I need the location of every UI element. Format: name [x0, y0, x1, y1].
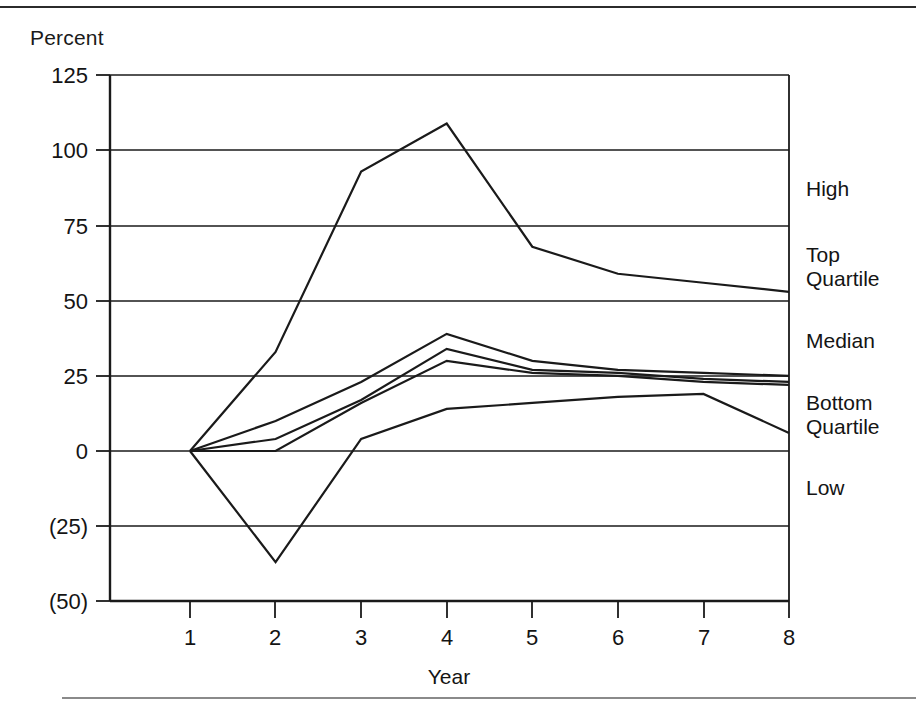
- series-label-bottom-quartile-line1: Bottom: [806, 391, 873, 414]
- x-tick-label-2: 2: [269, 625, 281, 650]
- y-tick-label-25: 25: [64, 364, 88, 389]
- y-tick-label-75: 75: [64, 214, 88, 239]
- x-axis-title: Year: [428, 665, 470, 688]
- line-chart: 125 100 75 50 25 0 (25) (50) 1 2 3 4 5 6…: [0, 0, 916, 706]
- y-tick-label-125: 125: [51, 63, 88, 88]
- series-label-top-quartile-line1: Top: [806, 243, 840, 266]
- x-tick-label-7: 7: [698, 625, 710, 650]
- x-tick-label-4: 4: [441, 625, 453, 650]
- y-tick-label-neg25: (25): [49, 514, 88, 539]
- y-tick-label-neg50: (50): [49, 589, 88, 614]
- x-tick-label-8: 8: [783, 625, 795, 650]
- series-line-top-quartile: [190, 334, 789, 451]
- series-lines: [190, 124, 789, 563]
- series-line-median: [190, 349, 789, 451]
- y-tick-label-0: 0: [76, 439, 88, 464]
- x-tick-label-3: 3: [355, 625, 367, 650]
- series-label-top-quartile-line2: Quartile: [806, 267, 880, 290]
- gridlines: [110, 75, 789, 601]
- series-label-median: Median: [806, 329, 875, 352]
- y-tick-marks: [96, 75, 110, 601]
- bottom-divider: [62, 697, 916, 699]
- x-tick-marks: [190, 601, 789, 618]
- x-tick-label-1: 1: [184, 625, 196, 650]
- series-label-bottom-quartile-line2: Quartile: [806, 415, 880, 438]
- chart-svg: 125 100 75 50 25 0 (25) (50) 1 2 3 4 5 6…: [0, 0, 916, 706]
- series-label-high: High: [806, 177, 849, 200]
- y-tick-label-100: 100: [51, 138, 88, 163]
- x-tick-label-5: 5: [526, 625, 538, 650]
- series-label-low: Low: [806, 476, 845, 499]
- series-line-high: [190, 124, 789, 451]
- x-tick-label-6: 6: [612, 625, 624, 650]
- y-tick-label-50: 50: [64, 289, 88, 314]
